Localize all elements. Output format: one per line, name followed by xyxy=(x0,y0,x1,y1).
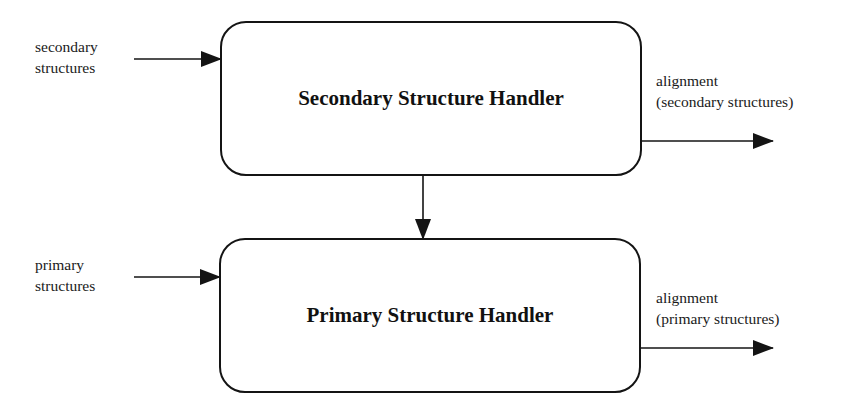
primary-handler-label: Primary Structure Handler xyxy=(307,303,554,328)
secondary-alignment-output-label: alignment (secondary structures) xyxy=(656,70,793,112)
primary-structures-input-label: primary structures xyxy=(35,254,95,296)
secondary-structures-input-label: secondary structures xyxy=(35,36,98,78)
output-label-line: alignment xyxy=(656,70,793,91)
output-label-line: (secondary structures) xyxy=(656,91,793,112)
input-label-line: primary xyxy=(35,254,95,275)
input-label-line: structures xyxy=(35,57,98,78)
input-label-line: secondary xyxy=(35,36,98,57)
secondary-structure-handler-node: Secondary Structure Handler xyxy=(220,21,642,176)
output-label-line: alignment xyxy=(656,287,780,308)
input-label-line: structures xyxy=(35,275,95,296)
primary-structure-handler-node: Primary Structure Handler xyxy=(219,238,641,393)
diagram-canvas: Secondary Structure Handler Primary Stru… xyxy=(0,0,853,414)
primary-alignment-output-label: alignment (primary structures) xyxy=(656,287,780,329)
output-label-line: (primary structures) xyxy=(656,308,780,329)
secondary-handler-label: Secondary Structure Handler xyxy=(298,86,564,111)
